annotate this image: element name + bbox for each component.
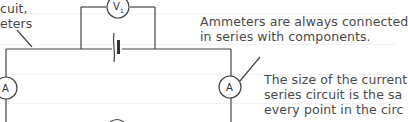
svg-text:1: 1	[120, 7, 124, 14]
annotation-current-line2: series circuit is the sa	[264, 87, 402, 102]
svg-text:V: V	[113, 1, 120, 12]
annotation-ammeter-series-line1: Ammeters are always connected	[200, 14, 408, 29]
annotation-current-line3: every point in the circ	[264, 102, 403, 117]
ammeter-right-icon: A	[219, 76, 241, 98]
ammeter-left-icon: A	[0, 77, 17, 99]
annotation-left-line1: cuit,	[0, 1, 28, 16]
annotation-ammeter-series-line2: in series with components.	[200, 29, 371, 44]
voltmeter-icon: V 1	[107, 0, 129, 18]
annotation-current-line1: The size of the current	[264, 72, 407, 87]
svg-text:A: A	[226, 82, 233, 93]
battery-icon	[114, 33, 121, 62]
annotation-left-line2: eters	[0, 16, 32, 31]
svg-text:A: A	[2, 83, 9, 94]
